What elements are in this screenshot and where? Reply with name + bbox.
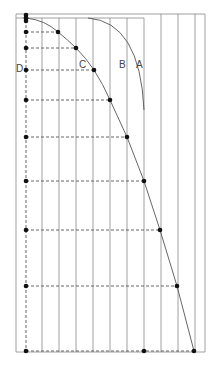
axis-point	[24, 30, 29, 35]
vertical-grid-lines	[16, 14, 205, 352]
frame-lines	[16, 14, 205, 352]
label-b: B	[119, 59, 126, 70]
axis-point	[24, 19, 29, 24]
axis-point	[24, 349, 29, 354]
curve-point	[56, 30, 61, 35]
bottom-point	[142, 349, 147, 354]
axis-point	[24, 135, 29, 140]
curve-point	[142, 179, 147, 184]
curve-point	[175, 284, 180, 289]
curve-point	[74, 46, 79, 51]
curve-point	[158, 228, 163, 233]
axis-point	[24, 98, 29, 103]
curve-point	[125, 135, 130, 140]
axis-point	[24, 228, 29, 233]
axis-point	[24, 284, 29, 289]
label-a: A	[136, 59, 143, 70]
curve-point	[108, 98, 113, 103]
label-d: D	[16, 63, 23, 74]
axis-point	[24, 46, 29, 51]
diagram-canvas: D C B A	[0, 0, 220, 375]
axis-point	[24, 68, 29, 73]
curve-point	[192, 349, 197, 354]
curve-point	[92, 68, 97, 73]
axis-point	[24, 179, 29, 184]
label-c: C	[79, 59, 86, 70]
